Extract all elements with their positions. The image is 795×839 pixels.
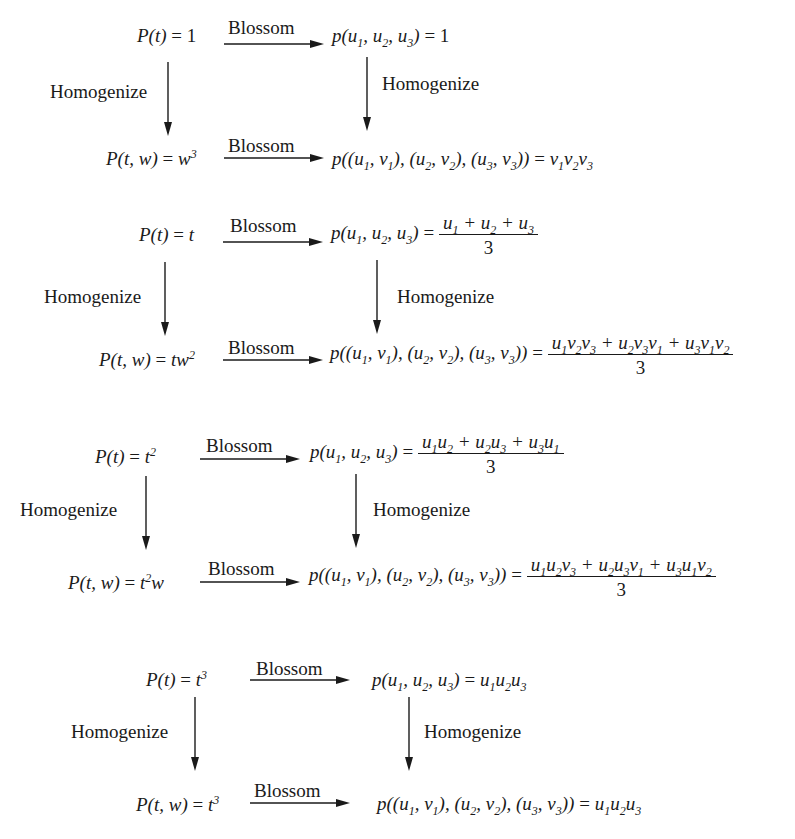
arrow-down-icon [142,476,150,550]
homogenize-label-right: Homogenize [373,500,470,519]
arrow-down-icon [164,62,172,136]
blossom-label: Blossom [228,136,295,155]
arrow-down-icon [373,260,381,334]
eq-top-right: p(u1, u2, u3) = u1u2 + u2u3 + u3u13 [310,432,564,476]
eq-bottom-left: P(t, w) = t2w [68,573,164,592]
eq-top-right: p(u1, u2, u3) = u1 + u2 + u33 [331,213,538,257]
blossom-label: Blossom [254,781,321,800]
eq-top-left: P(t) = t3 [146,670,207,689]
eq-top-right: p(u1, u2, u3) = u1u2u3 [372,670,526,689]
blossom-label: Blossom [228,18,295,37]
arrow-right-icon [200,578,300,586]
arrow-right-icon [200,455,300,463]
homogenize-label-right: Homogenize [397,287,494,306]
arrow-right-icon [250,799,350,807]
homogenize-label-right: Homogenize [424,722,521,741]
eq-bottom-right: p((u1, v1), (u2, v2), (u3, v3)) = u1u2v3… [309,555,716,599]
arrow-down-icon [363,57,371,131]
fraction: u1u2 + u2u3 + u3u13 [418,432,564,476]
homogenize-label-left: Homogenize [50,82,147,101]
eq-top-left: P(t) = t2 [95,447,156,466]
arrow-right-icon [250,676,350,684]
arrow-down-icon [405,697,413,771]
homogenize-label-left: Homogenize [71,722,168,741]
homogenize-label-left: Homogenize [20,500,117,519]
arrow-down-icon [191,697,199,771]
eq-top-right: p(u1, u2, u3) = 1 [332,26,449,45]
blossom-label: Blossom [206,436,273,455]
eq-bottom-left: P(t, w) = t3 [136,795,219,814]
arrow-right-icon [223,238,323,246]
fraction: u1u2v3 + u2u3v1 + u3u1v23 [527,555,716,599]
eq-top-left: P(t) = t [139,225,194,244]
arrow-down-icon [352,474,360,548]
eq-bottom-right: p((u1, v1), (u2, v2), (u3, v3)) = v1v2v3 [332,149,593,168]
arrow-right-icon [224,40,324,48]
eq-bottom-left: P(t, w) = tw2 [99,350,195,369]
homogenize-label-right: Homogenize [382,74,479,93]
blossom-label: Blossom [230,216,297,235]
arrow-down-icon [161,262,169,336]
arrow-right-icon [224,154,324,162]
eq-bottom-left: P(t, w) = w3 [106,149,197,168]
blossom-label: Blossom [208,559,275,578]
fraction: u1 + u2 + u33 [439,213,538,257]
eq-bottom-right: p((u1, v1), (u2, v2), (u3, v3)) = u1u2u3 [377,794,641,813]
arrow-right-icon [223,356,323,364]
fraction: u1v2v3 + u2v3v1 + u3v1v23 [548,333,734,377]
homogenize-label-left: Homogenize [44,287,141,306]
eq-bottom-right: p((u1, v1), (u2, v2), (u3, v3)) = u1v2v3… [330,333,733,377]
eq-top-left: P(t) = 1 [137,26,196,45]
blossom-label: Blossom [228,338,295,357]
